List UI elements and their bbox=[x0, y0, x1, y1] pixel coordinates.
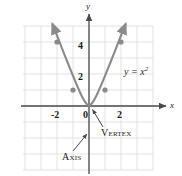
x-tick-label-neg2: -2 bbox=[51, 110, 59, 120]
graph-canvas bbox=[0, 0, 182, 176]
y-tick-label-2: 2 bbox=[78, 72, 83, 82]
data-point bbox=[102, 87, 107, 92]
vertex-annotation-label: Vertex bbox=[101, 128, 132, 138]
y-tick-label-4: 4 bbox=[78, 41, 83, 51]
plot-background bbox=[23, 26, 153, 170]
curve-equation-text: y = x bbox=[124, 66, 145, 77]
data-point bbox=[118, 39, 123, 44]
data-point bbox=[70, 87, 75, 92]
x-axis-label: x bbox=[170, 101, 174, 110]
curve-equation-label: y = x2 bbox=[124, 66, 148, 77]
axis-annotation-label: Axis bbox=[62, 152, 81, 162]
y-axis-label: y bbox=[86, 2, 90, 11]
x-tick-label-2: 2 bbox=[117, 110, 122, 120]
parabola-figure: x y -2 0 2 2 4 y = x2 Vertex Axis bbox=[0, 0, 182, 176]
x-tick-label-0: 0 bbox=[83, 110, 88, 120]
curve-equation-exponent: 2 bbox=[145, 65, 149, 73]
data-point bbox=[54, 39, 59, 44]
